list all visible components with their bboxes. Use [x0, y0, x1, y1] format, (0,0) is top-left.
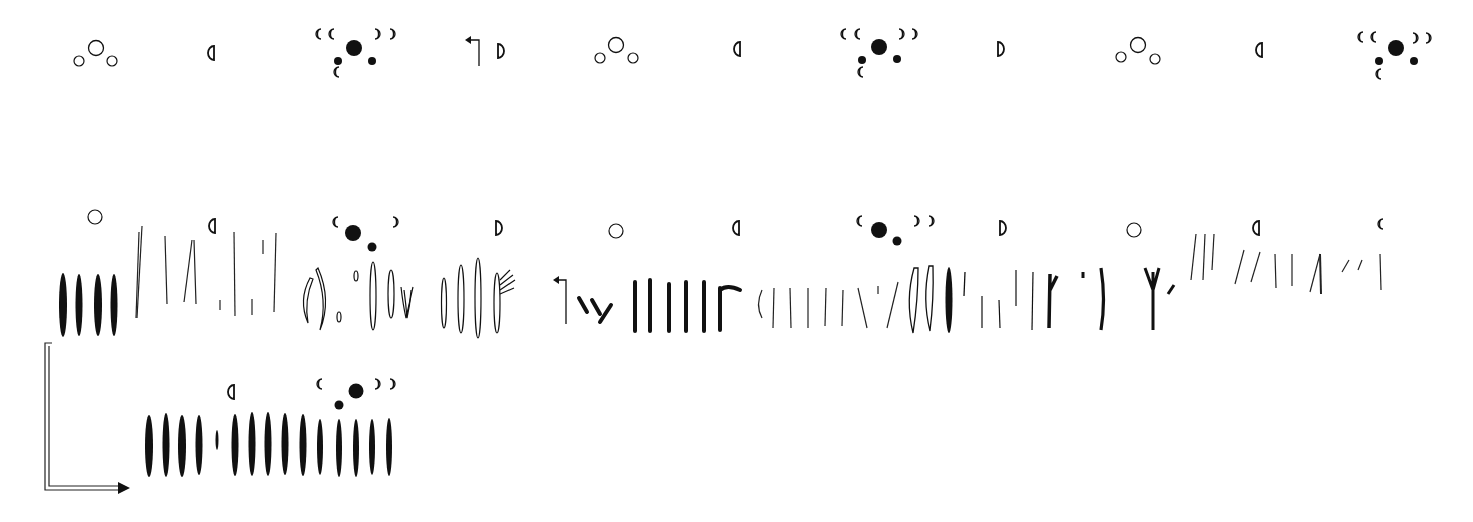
last-quarter-icon: [1256, 43, 1262, 57]
last-quarter-icon: [734, 42, 740, 56]
connector-arrow: [45, 343, 130, 494]
new-moon-icon: [841, 29, 917, 77]
first-quarter-icon: [998, 42, 1004, 56]
turn-arrow-icon: [465, 36, 479, 66]
turn-arrow-icon: [553, 276, 566, 324]
crescent-icon: [1378, 219, 1383, 229]
middle-row-marks: [59, 226, 1381, 338]
full-moon-icon: [1116, 38, 1160, 65]
lunar-notation-diagram: [0, 0, 1473, 522]
last-quarter-icon: [733, 221, 739, 235]
bottom-row-marks: [145, 412, 392, 477]
last-quarter-icon: [228, 385, 234, 399]
last-quarter-icon: [209, 219, 215, 233]
full-moon-icon: [88, 210, 102, 224]
first-quarter-icon: [496, 221, 502, 235]
bottom-row-symbols: [228, 379, 395, 410]
new-moon-icon: [857, 216, 934, 246]
top-row-symbols: [74, 29, 1431, 79]
first-quarter-icon: [498, 44, 504, 58]
full-moon-icon: [1127, 223, 1141, 237]
new-moon-icon: [1358, 32, 1431, 79]
full-moon-icon: [74, 41, 117, 67]
new-moon-icon: [333, 217, 398, 252]
full-moon-icon: [595, 38, 638, 64]
diagram-canvas: [0, 0, 1473, 522]
new-moon-icon: [316, 29, 395, 77]
new-moon-icon: [317, 379, 395, 410]
first-quarter-icon: [1000, 221, 1006, 235]
last-quarter-icon: [1253, 221, 1259, 235]
middle-row-symbols: [88, 210, 1383, 324]
last-quarter-icon: [208, 46, 214, 60]
full-moon-icon: [609, 224, 623, 238]
